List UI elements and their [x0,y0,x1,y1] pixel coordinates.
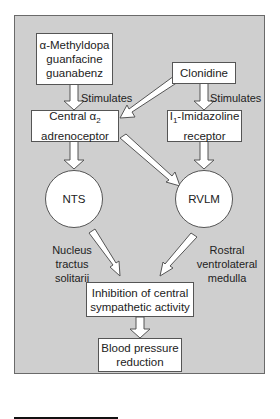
methyldopa-label: α-Methyldopa [37,38,112,52]
stimulates-left-label: Stimulates [81,91,132,105]
arrow-down-icon [64,141,84,169]
stimulates-right-label: Stimulates [210,91,261,105]
imidazoline-receptor-box: I1-Imidazoline receptor [167,110,242,142]
inhibition-line1: Inhibition of central [87,286,193,300]
nts-circle: NTS [45,170,103,228]
rvlm-circle: RVLM [175,170,233,228]
imidazoline-suffix: -Imidazoline [177,110,239,122]
receptor-label: receptor [168,129,241,143]
methyldopa-box: α-Methyldopa guanfacine guanabenz [36,33,113,85]
arrow-down-icon [194,141,214,169]
alpha2-prefix: Central α [49,110,96,122]
alpha2-adrenoceptor-box: Central α2 adrenoceptor [31,110,119,142]
alpha2-subscript: 2 [96,117,100,126]
rvlm-full-name: Rostral ventrolateral medulla [188,243,266,285]
bp-line2: reduction [99,355,181,369]
clonidine-box: Clonidine [172,62,236,84]
guanabenz-label: guanabenz [37,66,112,80]
bp-line1: Blood pressure [99,341,181,355]
bp-reduction-box: Blood pressure reduction [98,338,182,372]
inhibition-box: Inhibition of central sympathetic activi… [86,282,194,317]
inhibition-line2: sympathetic activity [87,300,193,314]
arrow-down-icon [130,317,150,338]
clonidine-label: Clonidine [173,66,235,80]
nts-label: NTS [63,193,86,205]
guanfacine-label: guanfacine [37,52,112,66]
rvlm-label: RVLM [188,193,220,205]
adrenoceptor-label: adrenoceptor [32,129,118,143]
nts-full-name: Nucleus tractus solitarii [42,243,102,285]
